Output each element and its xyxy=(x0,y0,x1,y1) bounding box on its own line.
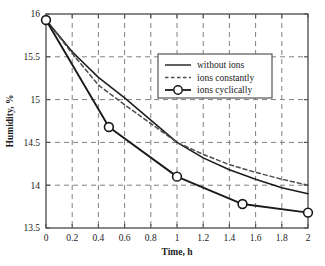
x-tick-label: 0 xyxy=(44,233,49,243)
data-point-marker xyxy=(173,172,182,181)
y-tick-label: 13.5 xyxy=(23,223,40,233)
data-point-marker xyxy=(42,16,51,25)
legend-entry-label: ions cyclically xyxy=(197,85,252,95)
data-point-marker xyxy=(304,208,313,217)
x-tick-label: 1 xyxy=(175,233,180,243)
humidity-vs-time-line-chart: 00.20.40.60.811.21.41.61.82 13.51414.515… xyxy=(0,0,325,266)
x-tick-label: 1.8 xyxy=(276,233,288,243)
chart-background xyxy=(0,0,325,266)
data-point-marker xyxy=(238,200,247,209)
chart-legend: without ionsions constantlyions cyclical… xyxy=(158,54,272,98)
x-tick-label: 0.6 xyxy=(119,233,131,243)
x-axis-title: Time, h xyxy=(162,247,194,257)
x-tick-label: 0.8 xyxy=(145,233,157,243)
y-tick-label: 14 xyxy=(31,181,41,191)
legend-entry-label: ions constantly xyxy=(197,73,255,83)
y-tick-label: 15 xyxy=(31,95,41,105)
x-tick-label: 1.4 xyxy=(223,233,235,243)
x-tick-label: 2 xyxy=(306,233,311,243)
legend-entry-label: without ions xyxy=(197,60,245,70)
x-tick-label: 1.2 xyxy=(197,233,209,243)
x-tick-label: 1.6 xyxy=(250,233,262,243)
x-tick-label: 0.4 xyxy=(92,233,104,243)
y-axis-title: Humidity, % xyxy=(5,95,15,148)
y-tick-label: 15.5 xyxy=(23,52,40,62)
chart-figure: 00.20.40.60.811.21.41.61.82 13.51414.515… xyxy=(0,0,325,266)
x-tick-label: 0.2 xyxy=(66,233,78,243)
y-tick-label: 14.5 xyxy=(23,138,40,148)
data-point-marker xyxy=(104,123,113,132)
y-tick-label: 16 xyxy=(31,9,41,19)
legend-swatch-marker xyxy=(174,86,182,94)
